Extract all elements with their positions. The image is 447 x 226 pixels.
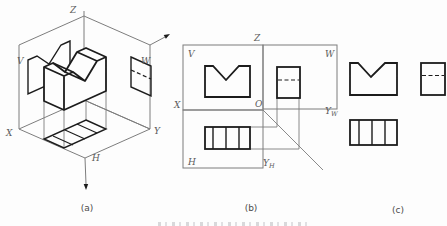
top-view	[205, 127, 250, 149]
plane-label-h: H	[91, 153, 100, 163]
axis-label-z: Z	[253, 33, 261, 43]
caption-b: (b)	[245, 203, 258, 213]
plane-label-h: H	[187, 157, 196, 167]
top-view-on-h-plane	[44, 120, 106, 148]
axis-label-z: Z	[69, 5, 77, 15]
panel-c-three-views: (c)	[340, 0, 447, 226]
plane-label-v: V	[17, 56, 25, 66]
axis-label-x: X	[5, 128, 13, 138]
figure-three-view-formation: Z V W X Y H (a)	[0, 0, 447, 226]
plane-label-w: W	[325, 49, 335, 59]
front-view	[350, 63, 397, 95]
top-view	[350, 120, 397, 145]
origin-label-o: O	[255, 99, 263, 109]
axis-label-yh: YH	[263, 158, 275, 170]
side-view	[421, 63, 445, 95]
front-view	[205, 66, 250, 97]
side-view	[277, 67, 300, 98]
caption-a: (a)	[81, 203, 94, 213]
plane-label-v: V	[188, 49, 196, 59]
caption-c: (c)	[392, 205, 404, 215]
unfold-arrow-h	[84, 158, 89, 190]
axis-label-x: X	[173, 100, 181, 110]
cropped-figure-caption	[158, 222, 310, 226]
